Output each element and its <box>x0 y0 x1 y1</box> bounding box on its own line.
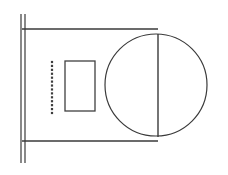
dot-mark <box>51 73 53 75</box>
dot-mark <box>51 77 53 79</box>
large-circle <box>105 34 207 136</box>
dot-mark <box>51 65 53 67</box>
dot-mark <box>51 61 53 63</box>
inner-rectangle <box>65 61 95 111</box>
dot-column <box>51 61 53 114</box>
dot-mark <box>51 104 53 106</box>
dot-mark <box>51 88 53 90</box>
dot-mark <box>51 108 53 110</box>
dot-mark <box>51 81 53 83</box>
dot-mark <box>51 92 53 94</box>
dot-mark <box>51 96 53 98</box>
dot-mark <box>51 84 53 86</box>
dot-mark <box>51 69 53 71</box>
dot-mark <box>51 100 53 102</box>
technical-drawing-canvas <box>0 0 228 175</box>
dot-mark <box>51 112 53 114</box>
drawing-svg <box>0 0 228 175</box>
